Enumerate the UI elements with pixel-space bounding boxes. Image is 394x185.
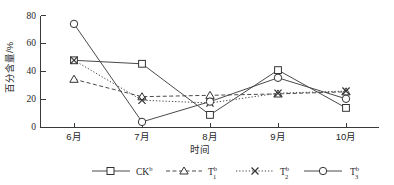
- x-tick-label-jul: 7月: [134, 131, 149, 142]
- line-chart: 百分含量/% 0 20 40 60 80 6月 7月 8月 9月 10月 时间 …: [0, 0, 394, 185]
- x-tick-label-jun: 6月: [66, 131, 81, 142]
- y-axis-title: 百分含量/%: [4, 41, 15, 93]
- data-point-t1-6月: [70, 75, 78, 82]
- x-axis-title: 时间: [190, 144, 210, 155]
- data-point-t3-8月: [206, 98, 213, 105]
- data-point-t3-9月: [274, 74, 281, 81]
- series-t3: [70, 20, 349, 125]
- y-tick-label-80: 80: [27, 11, 37, 21]
- series-ck: [71, 57, 350, 118]
- legend-marker-circle: [319, 167, 326, 174]
- y-axis-ticks: [41, 16, 46, 128]
- y-tick-label-0: 0: [31, 122, 36, 132]
- legend-item-ck[interactable]: CKb: [92, 165, 152, 177]
- y-tick-label-60: 60: [27, 38, 37, 48]
- chart-legend: CKb Tb1 Tb2 Tb3: [92, 165, 359, 180]
- legend-marker-square: [107, 168, 114, 175]
- data-point-t3-6月: [70, 20, 77, 27]
- data-point-t3-10月: [342, 95, 349, 102]
- data-point-ck-7月: [139, 60, 146, 67]
- x-axis-ticks: [75, 123, 347, 128]
- legend-item-t2[interactable]: Tb2: [236, 165, 289, 180]
- data-point-ck-8月: [207, 112, 214, 119]
- legend-label-ck: CKb: [136, 165, 152, 177]
- x-tick-label-sep: 9月: [270, 131, 285, 142]
- data-point-ck-10月: [343, 105, 350, 112]
- x-tick-label-aug: 8月: [202, 131, 217, 142]
- legend-label-t3: Tb3: [350, 165, 359, 180]
- legend-label-t1: Tb1: [208, 165, 217, 180]
- series-line-t3: [74, 24, 346, 122]
- y-tick-label-20: 20: [27, 94, 37, 104]
- series-line-ck: [74, 60, 346, 115]
- x-tick-label-oct: 10月: [336, 131, 357, 142]
- legend-item-t3[interactable]: Tb3: [304, 165, 359, 180]
- legend-item-t1[interactable]: Tb1: [166, 165, 217, 180]
- chart-container: 百分含量/% 0 20 40 60 80 6月 7月 8月 9月 10月 时间 …: [0, 0, 394, 185]
- plot-series-layer: [70, 20, 350, 125]
- data-point-ck-9月: [275, 67, 282, 74]
- legend-label-t2: Tb2: [280, 165, 289, 180]
- data-point-t3-7月: [138, 118, 145, 125]
- y-tick-label-40: 40: [27, 66, 37, 76]
- data-point-t1-8月: [206, 91, 214, 98]
